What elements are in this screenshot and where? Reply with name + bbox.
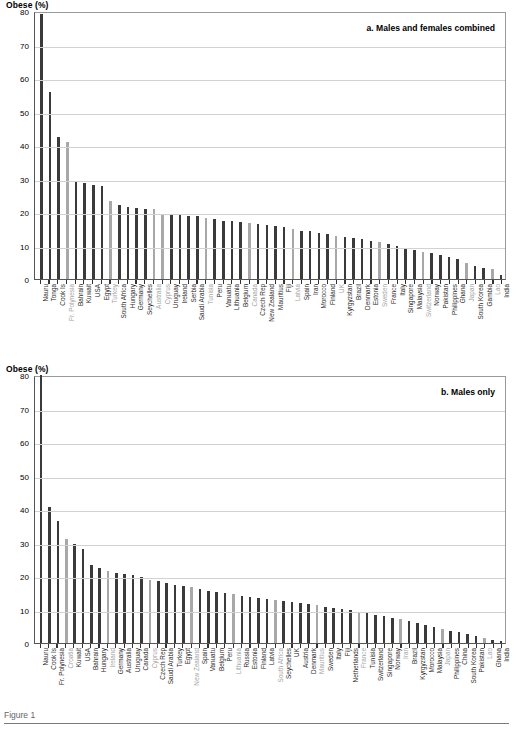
bar xyxy=(366,613,369,643)
bar xyxy=(66,142,69,279)
bar xyxy=(475,636,478,643)
figure-caption: Figure 1 xyxy=(4,710,517,720)
bar-slot xyxy=(187,377,195,643)
bar-slot xyxy=(238,377,246,643)
bar-slot xyxy=(141,13,150,279)
x-label-slot: Italy xyxy=(393,284,402,368)
bar xyxy=(241,596,244,643)
bar-slot xyxy=(162,377,170,643)
bar-slot xyxy=(410,13,419,279)
gridline xyxy=(35,478,505,479)
bar xyxy=(205,218,208,279)
bar xyxy=(207,591,210,643)
x-label-slot: Bahrain xyxy=(71,284,80,368)
bar-slot xyxy=(202,13,211,279)
bar-slot xyxy=(355,377,363,643)
bar xyxy=(416,623,419,643)
bar-slot xyxy=(497,377,505,643)
gridline xyxy=(35,511,505,512)
bar xyxy=(115,573,118,643)
bar xyxy=(282,601,285,643)
bar xyxy=(408,621,411,643)
bar-slot xyxy=(279,377,287,643)
y-tick-label: 10 xyxy=(20,606,29,615)
bar-slot xyxy=(115,13,124,279)
bar-slot xyxy=(89,13,98,279)
bar-slot xyxy=(393,13,402,279)
bar xyxy=(266,599,269,643)
y-tick-label: 0 xyxy=(25,276,29,285)
bar-slot xyxy=(221,377,229,643)
x-label-slot: Sweden xyxy=(375,284,384,368)
y-axis-title-b: Obese (%) xyxy=(6,364,517,374)
bar-slot xyxy=(196,377,204,643)
bar xyxy=(57,521,60,643)
bar-slot xyxy=(245,13,254,279)
bar-slot xyxy=(45,377,53,643)
chart-panel-a: Obese (%) 01020304050607080 a. Males and… xyxy=(0,0,517,12)
plot-area-b: b. Males only xyxy=(34,376,506,644)
bar-slot xyxy=(70,377,78,643)
bar-slot xyxy=(419,13,428,279)
x-label-slot: Fr. Polynesia xyxy=(62,284,71,368)
bar-slot xyxy=(246,377,254,643)
bar xyxy=(383,616,386,643)
bar xyxy=(215,592,218,643)
bar-slot xyxy=(341,13,350,279)
bar xyxy=(82,549,85,643)
bar-slot xyxy=(271,13,280,279)
bar-slot xyxy=(471,13,480,279)
x-label-slot: Philippines xyxy=(445,284,454,368)
bar-slot xyxy=(323,13,332,279)
bar xyxy=(73,544,76,643)
x-label-slot: Canada xyxy=(245,284,254,368)
x-label-slot: South Korea xyxy=(471,284,480,368)
bar-slot xyxy=(463,377,471,643)
bar xyxy=(439,255,442,279)
x-label-slot: Ireland xyxy=(175,284,184,368)
y-tick-label: 40 xyxy=(20,142,29,151)
bar xyxy=(433,627,436,643)
bar xyxy=(441,629,444,643)
x-label-slot: Uruguay xyxy=(167,284,176,368)
bar xyxy=(500,275,503,279)
x-label-slot: Singapore xyxy=(402,284,411,368)
bar-slot xyxy=(54,377,62,643)
bar xyxy=(299,603,302,643)
bar-slot xyxy=(179,377,187,643)
bar-slot xyxy=(171,377,179,643)
bar xyxy=(75,182,78,279)
y-axis-title-a: Obese (%) xyxy=(6,0,517,10)
bar-slot xyxy=(447,377,455,643)
bar xyxy=(248,223,251,279)
bar-slot xyxy=(455,377,463,643)
y-tick-label: 50 xyxy=(20,472,29,481)
bar-slot xyxy=(296,377,304,643)
bar xyxy=(474,266,477,279)
bar-slot xyxy=(37,377,45,643)
bar xyxy=(190,587,193,643)
bar xyxy=(391,618,394,643)
x-label-slot: Australia xyxy=(149,284,158,368)
x-label-slot: UK xyxy=(332,284,341,368)
y-tick-label: 0 xyxy=(25,640,29,649)
gridline xyxy=(35,214,505,215)
bar xyxy=(140,577,143,643)
bar-slot xyxy=(480,377,488,643)
bar-slot xyxy=(388,377,396,643)
bar-series-a xyxy=(35,13,505,279)
x-label-slot: Latvia xyxy=(288,284,297,368)
footer-divider xyxy=(4,723,509,724)
x-label-slot: Morocco xyxy=(315,284,324,368)
bar-slot xyxy=(453,13,462,279)
bar xyxy=(341,609,344,643)
x-label-slot: Mauritius xyxy=(271,284,280,368)
bar-slot xyxy=(280,13,289,279)
bar xyxy=(83,183,86,279)
bar-slot xyxy=(176,13,185,279)
gridline xyxy=(35,181,505,182)
x-label-slot: Egypt xyxy=(97,284,106,368)
y-axis-labels-a: 01020304050607080 xyxy=(6,12,32,280)
x-label-slot: Spain xyxy=(297,284,306,368)
x-label-slot: Malaysia xyxy=(410,284,419,368)
